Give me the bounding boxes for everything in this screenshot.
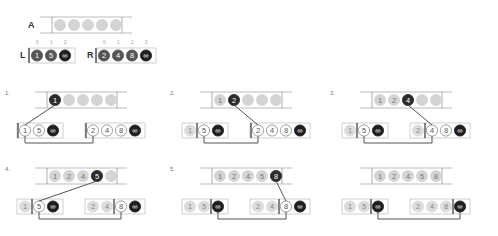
value-text: 4: [105, 202, 109, 211]
value-text: 5: [202, 126, 206, 135]
value-text: 8: [119, 126, 123, 135]
step-label: 5.: [170, 166, 175, 172]
value-text: 1: [53, 96, 57, 105]
value-text: 2: [91, 126, 95, 135]
array-slot-4: [110, 19, 121, 30]
value-text: ∞: [297, 126, 302, 135]
value-text: ∞: [132, 126, 137, 135]
value-text: 8: [130, 51, 134, 60]
value-text: 4: [270, 126, 274, 135]
array-slot-4: [105, 170, 116, 181]
value-text: ∞: [215, 126, 220, 135]
value-text: 2: [67, 172, 71, 181]
value-text: 8: [444, 202, 448, 211]
step-2: 2.1215∞248∞: [170, 90, 310, 143]
array-slot-3: [96, 19, 107, 30]
step-label: 1.: [5, 90, 10, 96]
step-5: 5.1245815∞248∞: [170, 166, 310, 219]
value-text: 1: [378, 172, 382, 181]
value-text: 5: [202, 202, 206, 211]
value-text: 2: [416, 202, 420, 211]
array-slot-4: [270, 94, 281, 105]
array-slot-3: [256, 94, 267, 105]
index-label: 2: [131, 40, 134, 45]
value-text: 4: [430, 202, 434, 211]
value-text: 2: [256, 202, 260, 211]
array-slot-3: [91, 94, 102, 105]
value-text: 8: [434, 172, 438, 181]
value-text: 1: [35, 51, 39, 60]
array-slot-1: [63, 94, 74, 105]
value-text: 4: [430, 126, 434, 135]
index-label: 1: [117, 40, 120, 45]
value-text: 4: [116, 51, 120, 60]
value-text: 1: [218, 172, 222, 181]
value-text: ∞: [132, 202, 137, 211]
value-text: 8: [274, 172, 278, 181]
value-text: ∞: [50, 126, 55, 135]
index-label: 3: [145, 40, 148, 45]
value-text: 1: [188, 202, 192, 211]
step-label: 3.: [330, 90, 335, 96]
value-text: 5: [37, 202, 41, 211]
value-text: 2: [232, 172, 236, 181]
value-text: 5: [362, 202, 366, 211]
index-label: 0: [36, 40, 39, 45]
value-text: 5: [95, 172, 99, 181]
array-slot-2: [242, 94, 253, 105]
value-text: 2: [91, 202, 95, 211]
value-text: ∞: [297, 202, 302, 211]
index-label: 1: [50, 40, 53, 45]
value-text: 5: [362, 126, 366, 135]
value-text: 2: [416, 126, 420, 135]
value-text: 1: [23, 126, 27, 135]
value-text: ∞: [375, 202, 380, 211]
array-slot-2: [77, 94, 88, 105]
value-text: 1: [378, 96, 382, 105]
value-text: ∞: [143, 51, 148, 60]
value-text: 4: [246, 172, 250, 181]
value-text: 8: [119, 202, 123, 211]
label-r: R: [87, 50, 94, 60]
initial-state: AL1051∞2R204182∞3: [20, 17, 156, 63]
value-text: 2: [392, 172, 396, 181]
step-4: 4.124515∞248∞: [5, 166, 145, 219]
label-l: L: [20, 50, 26, 60]
value-text: 1: [348, 202, 352, 211]
step-1: 1.115∞248∞: [5, 90, 145, 143]
index-label: 2: [64, 40, 67, 45]
value-text: 2: [256, 126, 260, 135]
value-text: 1: [348, 126, 352, 135]
value-text: ∞: [457, 202, 462, 211]
value-text: 5: [37, 126, 41, 135]
array-slot-2: [82, 19, 93, 30]
step-label: 4.: [5, 166, 10, 172]
array-slot-0: [54, 19, 65, 30]
value-text: 2: [102, 51, 106, 60]
label-a: A: [28, 20, 35, 30]
array-slot-1: [68, 19, 79, 30]
step-label: 2.: [170, 90, 175, 96]
value-text: 4: [105, 126, 109, 135]
merge-diagram: AL1051∞2R204182∞31.115∞248∞2.1215∞248∞3.…: [0, 0, 498, 236]
array-slot-4: [105, 94, 116, 105]
value-text: 4: [406, 172, 410, 181]
value-text: ∞: [62, 51, 67, 60]
value-text: 4: [406, 96, 410, 105]
value-text: 1: [53, 172, 57, 181]
step-6: 1245815∞248∞: [342, 168, 470, 219]
value-text: ∞: [215, 202, 220, 211]
value-text: 1: [23, 202, 27, 211]
value-text: 5: [420, 172, 424, 181]
value-text: 5: [49, 51, 53, 60]
value-text: 2: [392, 96, 396, 105]
value-text: 4: [81, 172, 85, 181]
value-text: 4: [270, 202, 274, 211]
value-text: 5: [260, 172, 264, 181]
value-text: 8: [444, 126, 448, 135]
value-text: ∞: [457, 126, 462, 135]
value-text: 8: [284, 202, 288, 211]
index-label: 0: [103, 40, 106, 45]
value-text: 1: [188, 126, 192, 135]
value-text: 1: [218, 96, 222, 105]
